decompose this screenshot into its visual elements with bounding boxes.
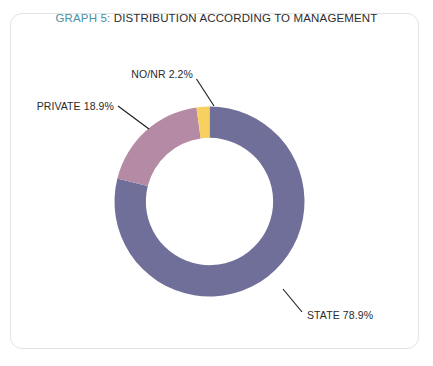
callout-state: STATE 78.9% [307,309,373,321]
callout-no-nr: NO/NR 2.2% [131,68,193,80]
leader-line-state [283,289,302,312]
screenshot-root: GRAPH 5: DISTRIBUTION ACCORDING TO MANAG… [0,0,433,366]
donut-slices [115,107,305,297]
slice-private[interactable] [117,107,200,186]
leader-line-no-nr [197,79,215,106]
callout-private: PRIVATE 18.9% [37,100,114,112]
donut-chart: PRIVATE 18.9% NO/NR 2.2% STATE 78.9% [0,0,433,366]
leader-line-private [118,106,149,129]
